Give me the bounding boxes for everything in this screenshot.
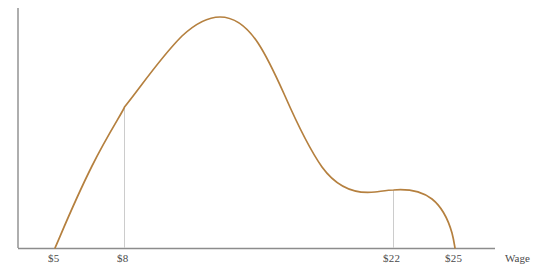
x-tick-label-5: $5 <box>48 252 59 264</box>
chart-canvas <box>0 0 541 270</box>
x-tick-label-22: $22 <box>383 252 400 264</box>
wage-distribution-curve <box>55 17 455 248</box>
x-tick-label-8: $8 <box>117 252 128 264</box>
wage-distribution-chart: - - $5 $8 $22 $25 Wage <box>0 0 541 270</box>
x-axis-title: Wage <box>505 252 530 264</box>
x-tick-label-25: $25 <box>445 252 462 264</box>
